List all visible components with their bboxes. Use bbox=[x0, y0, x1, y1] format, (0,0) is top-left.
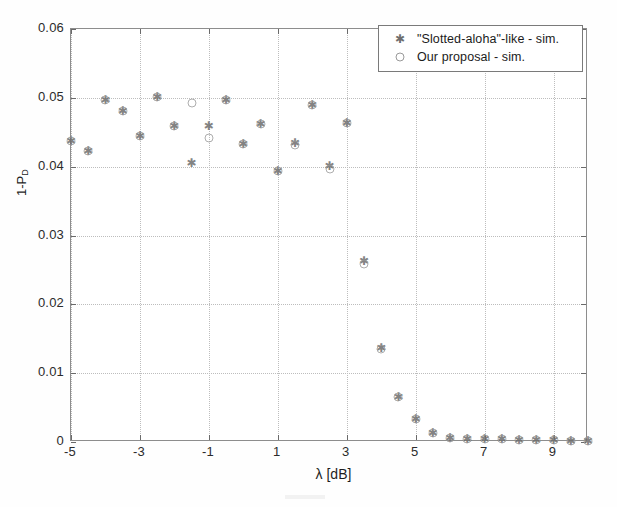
marker-asterisk-icon: ✱ bbox=[395, 34, 406, 45]
plot-area: ✱✱✱✱✱✱✱✱✱✱✱✱✱✱✱✱✱✱✱✱✱✱✱✱✱✱✱✱✱✱✱ bbox=[70, 28, 587, 441]
marker-circle-icon bbox=[394, 392, 403, 401]
marker-circle-icon bbox=[308, 101, 317, 110]
marker-asterisk-icon: ✱ bbox=[496, 434, 507, 445]
gridline-horizontal bbox=[71, 167, 586, 168]
marker-circle-icon bbox=[584, 436, 593, 445]
marker-asterisk-icon: ✱ bbox=[324, 160, 335, 171]
y-tick-mark bbox=[71, 304, 76, 305]
y-tick-mark bbox=[581, 167, 586, 168]
y-tick-label: 0.02 bbox=[38, 295, 64, 310]
marker-asterisk-icon: ✱ bbox=[376, 343, 387, 354]
marker-asterisk-icon: ✱ bbox=[255, 118, 266, 129]
marker-asterisk-icon: ✱ bbox=[462, 433, 473, 444]
x-tick-label: 7 bbox=[480, 444, 487, 459]
y-tick-mark bbox=[71, 167, 76, 168]
y-tick-mark bbox=[71, 29, 76, 30]
x-tick-label: 5 bbox=[411, 444, 418, 459]
x-tick-mark bbox=[209, 435, 210, 440]
marker-circle-icon bbox=[222, 95, 231, 104]
marker-asterisk-icon: ✱ bbox=[410, 413, 421, 424]
x-tick-mark bbox=[347, 435, 348, 440]
marker-circle-icon bbox=[497, 435, 506, 444]
gridline-vertical bbox=[278, 29, 279, 440]
marker-asterisk-icon: ✱ bbox=[531, 434, 542, 445]
y-tick-mark bbox=[581, 236, 586, 237]
marker-circle-icon bbox=[342, 118, 351, 127]
gridline-vertical bbox=[485, 29, 486, 440]
gridline-horizontal bbox=[71, 373, 586, 374]
marker-circle-icon bbox=[135, 132, 144, 141]
y-tick-label: 0.03 bbox=[38, 227, 64, 242]
gridline-vertical bbox=[140, 29, 141, 440]
y-tick-mark bbox=[581, 98, 586, 99]
scan-artifact bbox=[285, 495, 325, 499]
marker-circle-icon bbox=[532, 435, 541, 444]
legend-marker bbox=[383, 49, 417, 65]
y-tick-mark bbox=[71, 373, 76, 374]
marker-circle-icon bbox=[187, 98, 196, 107]
marker-circle-icon bbox=[67, 136, 76, 145]
marker-circle-icon bbox=[377, 345, 386, 354]
marker-asterisk-icon: ✱ bbox=[565, 435, 576, 446]
marker-circle-icon bbox=[84, 146, 93, 155]
legend-label: "Slotted-aloha"-like - sim. bbox=[417, 32, 559, 46]
x-tick-mark bbox=[347, 29, 348, 34]
legend-label: Our proposal - sim. bbox=[417, 50, 525, 64]
marker-asterisk-icon: ✱ bbox=[238, 138, 249, 149]
marker-circle-icon bbox=[515, 435, 524, 444]
x-axis-label: λ [dB] bbox=[0, 466, 617, 482]
x-tick-mark bbox=[485, 435, 486, 440]
x-tick-mark bbox=[278, 435, 279, 440]
marker-asterisk-icon: ✱ bbox=[83, 145, 94, 156]
y-tick-mark bbox=[71, 442, 76, 443]
gridline-vertical bbox=[554, 29, 555, 440]
y-tick-mark bbox=[71, 98, 76, 99]
y-axis-label-subscript: D bbox=[20, 169, 30, 176]
x-tick-label: -1 bbox=[202, 444, 214, 459]
marker-circle-icon bbox=[101, 95, 110, 104]
x-tick-mark bbox=[278, 29, 279, 34]
marker-asterisk-icon: ✱ bbox=[290, 138, 301, 149]
y-axis-label: 1-PD bbox=[14, 169, 30, 196]
x-tick-mark bbox=[140, 435, 141, 440]
marker-asterisk-icon: ✱ bbox=[307, 100, 318, 111]
marker-circle-icon bbox=[463, 434, 472, 443]
marker-asterisk-icon: ✱ bbox=[169, 121, 180, 132]
x-tick-mark bbox=[416, 435, 417, 440]
y-tick-mark bbox=[581, 304, 586, 305]
marker-circle-icon bbox=[273, 166, 282, 175]
marker-circle-icon bbox=[256, 119, 265, 128]
marker-asterisk-icon: ✱ bbox=[203, 121, 214, 132]
y-tick-label: 0.06 bbox=[38, 20, 64, 35]
y-tick-label: 0.01 bbox=[38, 364, 64, 379]
legend-marker: ✱ bbox=[383, 31, 417, 47]
marker-asterisk-icon: ✱ bbox=[393, 391, 404, 402]
marker-asterisk-icon: ✱ bbox=[514, 434, 525, 445]
marker-circle-icon bbox=[428, 429, 437, 438]
marker-circle-icon bbox=[411, 415, 420, 424]
marker-asterisk-icon: ✱ bbox=[272, 165, 283, 176]
marker-asterisk-icon: ✱ bbox=[427, 428, 438, 439]
marker-circle-icon bbox=[396, 53, 405, 62]
marker-asterisk-icon: ✱ bbox=[583, 435, 594, 446]
gridline-horizontal bbox=[71, 304, 586, 305]
marker-circle-icon bbox=[153, 93, 162, 102]
gridline-vertical bbox=[347, 29, 348, 440]
x-tick-label: -5 bbox=[64, 444, 76, 459]
marker-asterisk-icon: ✱ bbox=[358, 255, 369, 266]
chart-legend: ✱"Slotted-aloha"-like - sim.Our proposal… bbox=[378, 25, 583, 72]
marker-circle-icon bbox=[204, 133, 213, 142]
marker-circle-icon bbox=[566, 436, 575, 445]
marker-asterisk-icon: ✱ bbox=[134, 131, 145, 142]
x-tick-label: 9 bbox=[549, 444, 556, 459]
marker-asterisk-icon: ✱ bbox=[341, 117, 352, 128]
y-tick-label: 0.05 bbox=[38, 89, 64, 104]
x-tick-label: 1 bbox=[273, 444, 280, 459]
marker-asterisk-icon: ✱ bbox=[66, 135, 77, 146]
y-tick-label: 0 bbox=[57, 433, 64, 448]
gridline-vertical bbox=[416, 29, 417, 440]
marker-asterisk-icon: ✱ bbox=[100, 94, 111, 105]
y-tick-label: 0.04 bbox=[38, 158, 64, 173]
gridline-vertical bbox=[71, 29, 72, 440]
marker-asterisk-icon: ✱ bbox=[186, 157, 197, 168]
